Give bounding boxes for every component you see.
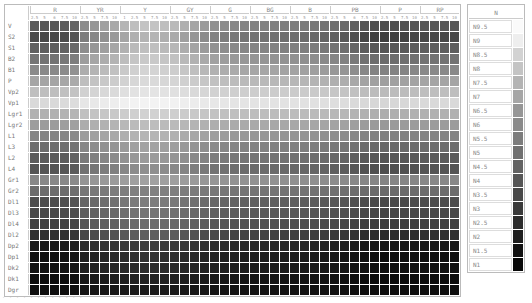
color-swatch	[200, 65, 209, 75]
color-swatch	[60, 109, 69, 119]
color-swatch	[130, 164, 139, 174]
color-swatch	[430, 263, 439, 273]
color-swatch	[90, 131, 99, 141]
color-swatch	[90, 164, 99, 174]
row-label: Dk1	[6, 274, 29, 284]
color-swatch	[240, 120, 249, 130]
color-swatch	[380, 98, 389, 108]
color-swatch	[280, 285, 289, 295]
color-swatch	[170, 43, 179, 53]
color-swatch	[100, 186, 109, 196]
color-swatch	[80, 186, 89, 196]
color-swatch	[200, 54, 209, 64]
color-swatch	[320, 186, 329, 196]
color-swatch	[290, 109, 299, 119]
color-swatch	[210, 197, 219, 207]
color-swatch	[120, 54, 129, 64]
color-swatch	[400, 186, 409, 196]
color-swatch	[280, 175, 289, 185]
neutral-label: N7	[469, 90, 512, 103]
color-swatch	[290, 252, 299, 262]
color-swatch	[260, 285, 269, 295]
neutral-row: N7	[469, 90, 523, 103]
color-swatch	[360, 197, 369, 207]
color-swatch	[190, 43, 199, 53]
color-swatch	[40, 32, 49, 42]
color-swatch	[250, 87, 259, 97]
color-swatch	[240, 197, 249, 207]
color-swatch	[210, 43, 219, 53]
color-swatch	[130, 98, 139, 108]
color-swatch	[200, 142, 209, 152]
color-swatch	[210, 285, 219, 295]
step-header: 5	[340, 15, 349, 20]
color-swatch	[450, 208, 459, 218]
color-swatch	[150, 197, 159, 207]
color-swatch	[230, 197, 239, 207]
color-swatch	[170, 32, 179, 42]
color-swatch	[430, 142, 439, 152]
color-swatch	[80, 230, 89, 240]
color-swatch	[260, 65, 269, 75]
color-swatch	[390, 197, 399, 207]
color-swatch	[350, 186, 359, 196]
color-swatch	[200, 76, 209, 86]
color-swatch	[300, 175, 309, 185]
color-swatch	[360, 186, 369, 196]
color-swatch	[280, 131, 289, 141]
color-swatch	[340, 98, 349, 108]
color-swatch	[180, 76, 189, 86]
color-swatch	[320, 197, 329, 207]
color-swatch	[70, 109, 79, 119]
color-swatch	[310, 274, 319, 284]
color-swatch	[230, 285, 239, 295]
neutral-swatch	[513, 104, 523, 117]
color-swatch	[60, 142, 69, 152]
color-swatch	[300, 131, 309, 141]
color-swatch	[50, 87, 59, 97]
color-swatch	[440, 285, 449, 295]
color-swatch	[350, 65, 359, 75]
color-swatch	[340, 175, 349, 185]
neutral-label: N5.5	[469, 132, 512, 145]
color-swatch	[330, 241, 339, 251]
neutral-row: N9.5	[469, 20, 523, 33]
neutral-swatch	[513, 146, 523, 159]
color-swatch	[380, 175, 389, 185]
color-swatch	[300, 252, 309, 262]
neutral-swatch	[513, 62, 523, 75]
neutral-swatch	[513, 258, 523, 271]
color-swatch	[450, 153, 459, 163]
color-swatch	[300, 263, 309, 273]
color-swatch	[260, 98, 269, 108]
color-swatch	[340, 219, 349, 229]
color-swatch	[130, 54, 139, 64]
neutral-row: N1	[469, 258, 523, 271]
color-swatch	[150, 153, 159, 163]
color-swatch	[110, 109, 119, 119]
color-swatch	[390, 274, 399, 284]
step-header: 10	[450, 15, 459, 20]
color-swatch	[170, 175, 179, 185]
hue-header-y: Y	[120, 6, 169, 14]
color-swatch	[380, 153, 389, 163]
color-swatch	[70, 87, 79, 97]
color-swatch	[80, 153, 89, 163]
neutral-label: N3	[469, 202, 512, 215]
neutral-row: N2.5	[469, 216, 523, 229]
color-swatch	[80, 252, 89, 262]
color-swatch	[370, 197, 379, 207]
color-swatch	[120, 43, 129, 53]
color-swatch	[110, 21, 119, 31]
row-label: L2	[6, 153, 29, 163]
color-swatch	[120, 65, 129, 75]
color-swatch	[160, 109, 169, 119]
color-swatch	[260, 153, 269, 163]
color-swatch	[300, 109, 309, 119]
color-swatch	[180, 43, 189, 53]
color-swatch	[340, 164, 349, 174]
color-swatch	[350, 230, 359, 240]
color-swatch	[180, 252, 189, 262]
color-swatch	[50, 252, 59, 262]
color-swatch	[250, 164, 259, 174]
